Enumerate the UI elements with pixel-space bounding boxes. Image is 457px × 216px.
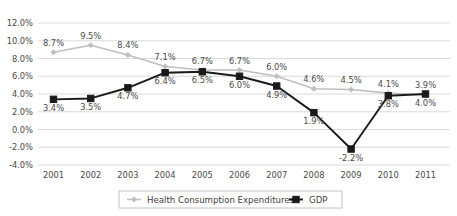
data-point-marker <box>311 86 317 92</box>
data-point-marker <box>237 67 243 73</box>
data-point-marker <box>88 95 94 101</box>
data-label: 6.7% <box>192 56 213 66</box>
data-label: 1.9% <box>303 116 324 126</box>
data-label: 4.7% <box>117 91 138 101</box>
data-label: 3.5% <box>80 102 101 112</box>
x-axis-tick-label: 2002 <box>80 170 101 180</box>
data-label: 9.5% <box>80 31 101 41</box>
data-point-marker <box>125 85 131 91</box>
legend-label-health-consumption-expenditures[interactable]: Health Consumption Expenditures <box>147 195 295 205</box>
x-axis-tick-label: 2009 <box>341 170 362 180</box>
data-label: 3.9% <box>415 80 436 90</box>
data-point-marker <box>274 83 280 89</box>
x-axis-tick-label: 2001 <box>43 170 64 180</box>
data-label: 6.5% <box>192 75 213 85</box>
x-axis-tick-labels: 2001200220032004200520062007200820092010… <box>43 170 436 180</box>
y-axis-tick-label: 2.0% <box>12 107 33 117</box>
data-point-marker <box>422 91 428 97</box>
y-axis-tick-labels: 12.0%10.0%8.0%6.0%4.0%2.0%0.0%-2.0%-4.0% <box>7 18 33 170</box>
data-point-marker <box>51 49 57 55</box>
data-point-marker <box>88 42 94 48</box>
x-axis-tick-label: 2011 <box>415 170 436 180</box>
data-point-marker <box>162 70 168 76</box>
data-point-marker <box>274 73 280 79</box>
data-point-marker <box>348 87 354 93</box>
data-label: 8.4% <box>117 40 138 50</box>
data-point-marker <box>162 64 168 70</box>
x-axis-tick-label: 2007 <box>266 170 287 180</box>
line-chart: 12.0%10.0%8.0%6.0%4.0%2.0%0.0%-2.0%-4.0%… <box>0 0 457 216</box>
x-axis-tick-label: 2003 <box>117 170 138 180</box>
data-label: 4.5% <box>341 75 362 85</box>
y-axis-tick-label: 8.0% <box>12 54 33 64</box>
data-label: 6.0% <box>229 80 250 90</box>
data-point-marker <box>311 109 317 115</box>
data-label: 7.1% <box>155 52 176 62</box>
data-label: 6.4% <box>155 76 176 86</box>
data-point-marker <box>199 69 205 75</box>
data-labels: 8.7%9.5%8.4%7.1%6.7%6.7%6.0%4.6%4.5%4.1%… <box>43 31 436 163</box>
y-axis-tick-label: 4.0% <box>12 89 33 99</box>
data-label: 3.8% <box>378 99 399 109</box>
data-point-marker <box>125 52 131 58</box>
x-axis-tick-label: 2010 <box>378 170 399 180</box>
data-point-marker <box>50 96 56 102</box>
y-axis-tick-label: -4.0% <box>9 160 33 170</box>
x-axis-tick-label: 2005 <box>192 170 213 180</box>
data-label: -2.2% <box>339 153 363 163</box>
data-label: 4.6% <box>303 74 324 84</box>
x-axis-tick-label: 2004 <box>155 170 176 180</box>
data-label: 4.0% <box>415 98 436 108</box>
legend-label-gdp[interactable]: GDP <box>309 195 327 205</box>
data-point-marker <box>385 93 391 99</box>
data-label: 4.9% <box>266 90 287 100</box>
y-axis-tick-label: 10.0% <box>7 36 33 46</box>
x-axis-tick-label: 2008 <box>303 170 324 180</box>
y-axis-tick-label: -2.0% <box>9 142 33 152</box>
data-label: 8.7% <box>43 38 64 48</box>
y-axis-tick-label: 6.0% <box>12 71 33 81</box>
data-point-marker <box>348 146 354 152</box>
data-label: 6.7% <box>229 56 250 66</box>
data-label: 3.4% <box>43 103 64 113</box>
x-axis-tick-label: 2006 <box>229 170 250 180</box>
data-point-marker <box>236 73 242 79</box>
data-label: 6.0% <box>266 62 287 72</box>
legend-marker-gdp <box>293 196 299 202</box>
y-axis-tick-label: 0.0% <box>12 125 33 135</box>
data-label: 4.1% <box>378 79 399 89</box>
chart-container: 12.0%10.0%8.0%6.0%4.0%2.0%0.0%-2.0%-4.0%… <box>0 0 457 216</box>
y-axis-tick-label: 12.0% <box>7 18 33 28</box>
chart-legend[interactable]: Health Consumption ExpendituresGDP <box>119 191 342 208</box>
